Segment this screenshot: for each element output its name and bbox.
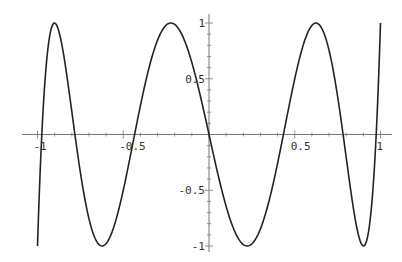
y-tick-label: 1 xyxy=(198,17,205,30)
x-tick-label: 0.5 xyxy=(291,140,311,153)
y-tick-label: -0.5 xyxy=(179,184,206,197)
x-tick-label: 1 xyxy=(377,140,384,153)
axes xyxy=(22,14,392,252)
chart: -1-0.50.5110.5-0.5-1 xyxy=(0,0,402,262)
y-tick-label: -1 xyxy=(192,240,205,253)
x-tick-label: -1 xyxy=(34,140,47,153)
